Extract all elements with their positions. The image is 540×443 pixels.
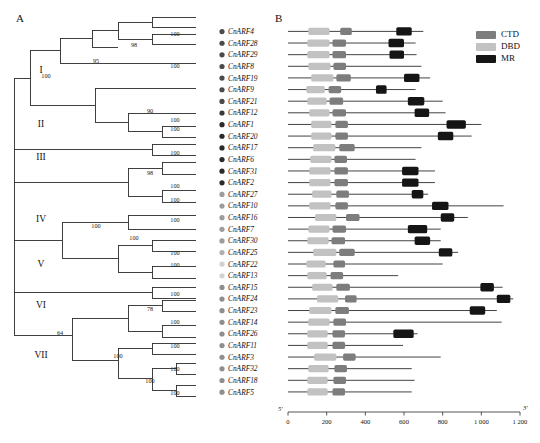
legend-item: DBD — [476, 42, 520, 51]
domain-ctd — [343, 353, 356, 360]
domain-mr — [393, 330, 413, 338]
domain-ctd — [329, 86, 342, 93]
domain-ctd — [340, 28, 352, 35]
domain-dbd — [313, 144, 335, 151]
domain-mr — [390, 50, 405, 58]
domain-ctd — [331, 272, 344, 279]
domain-ctd — [332, 51, 346, 58]
axis-tick-label: 600 — [399, 418, 410, 425]
domain-dbd — [308, 63, 330, 70]
domain-ctd — [333, 377, 346, 384]
domain-mr — [376, 85, 387, 93]
domain-ctd — [332, 330, 345, 337]
domain-ctd — [334, 156, 347, 163]
domain-ctd — [345, 295, 357, 302]
domain-mr — [404, 74, 419, 82]
domain-dbd — [307, 237, 328, 244]
axis-tick-label: 1 200 — [513, 418, 529, 425]
domain-dbd — [307, 330, 327, 337]
domain-mr — [470, 306, 485, 314]
axis-tick-label: 0 — [286, 418, 290, 425]
domain-ctd — [335, 132, 348, 139]
domain-mr — [447, 120, 466, 128]
domain-ctd — [333, 260, 345, 267]
five-prime-marker: 5' — [278, 405, 283, 412]
domain-mr — [439, 248, 453, 256]
domain-dbd — [306, 86, 324, 93]
domain-dbd — [307, 377, 327, 384]
domain-mr — [408, 97, 424, 105]
domain-ctd — [332, 226, 346, 233]
domain-dbd — [311, 121, 331, 128]
legend-swatch-dbd — [476, 43, 496, 51]
axis-tick-label: 800 — [438, 418, 449, 425]
domain-ctd — [339, 144, 354, 151]
domain-dbd — [309, 167, 330, 174]
legend-item: MR — [476, 54, 520, 63]
domain-dbd — [306, 260, 325, 267]
domain-dbd — [309, 202, 330, 209]
domain-dbd — [307, 51, 329, 58]
domain-dbd — [309, 109, 329, 116]
domain-dbd — [307, 98, 326, 105]
domain-dbd — [314, 353, 336, 360]
domain-ctd — [336, 284, 350, 291]
domain-rows — [288, 27, 513, 395]
domain-mr — [432, 202, 448, 210]
domain-dbd — [309, 179, 330, 186]
domain-dbd — [308, 226, 329, 233]
domain-ctd — [332, 39, 346, 46]
domain-dbd — [312, 284, 332, 291]
domain-ctd — [339, 249, 354, 256]
domain-mr — [441, 213, 455, 221]
domain-ctd — [332, 109, 346, 116]
domain-dbd — [307, 388, 327, 395]
domain-ctd — [333, 63, 346, 70]
legend-swatch-mr — [476, 55, 496, 63]
figure-root: A B 100989510010090100100100981001001001… — [0, 0, 540, 443]
domain-mr — [438, 132, 453, 140]
domain-dbd — [307, 39, 329, 46]
length-axis: 02004006008001 0001 2005'3' — [278, 404, 528, 426]
domain-ctd — [332, 237, 346, 244]
domain-ctd — [333, 319, 346, 326]
domain-dbd — [307, 342, 327, 349]
domain-dbd — [308, 365, 328, 372]
domain-dbd — [312, 191, 331, 198]
domain-dbd — [307, 272, 326, 279]
legend-label: CTD — [501, 30, 519, 39]
domain-mr — [402, 167, 418, 175]
domain-ctd — [336, 74, 351, 81]
axis-tick-label: 400 — [360, 418, 371, 425]
domain-mr — [408, 225, 427, 233]
domain-ctd — [335, 202, 348, 209]
domain-dbd — [317, 295, 338, 302]
domain-ctd — [335, 121, 348, 128]
legend-label: MR — [501, 54, 515, 63]
domain-dbd — [308, 319, 329, 326]
domain-ctd — [332, 342, 345, 349]
legend: CTDDBDMR — [476, 30, 520, 63]
domain-ctd — [330, 98, 344, 105]
legend-label: DBD — [501, 42, 520, 51]
three-prime-marker: 3' — [522, 404, 528, 411]
domain-dbd — [315, 214, 336, 221]
domain-mr — [415, 237, 430, 245]
domain-dbd — [308, 28, 329, 35]
axis-tick-label: 1 000 — [474, 418, 490, 425]
domain-ctd — [336, 191, 349, 198]
domain-architecture: 02004006008001 0001 2005'3' — [0, 0, 540, 443]
domain-mr — [402, 178, 418, 186]
domain-mr — [497, 295, 511, 303]
domain-ctd — [334, 167, 348, 174]
domain-dbd — [311, 132, 331, 139]
domain-dbd — [309, 307, 331, 314]
domain-mr — [415, 109, 430, 117]
domain-ctd — [334, 365, 347, 372]
domain-ctd — [334, 179, 348, 186]
domain-ctd — [332, 388, 345, 395]
domain-mr — [396, 27, 411, 35]
domain-mr — [480, 283, 494, 291]
legend-swatch-ctd — [476, 31, 496, 39]
domain-ctd — [346, 214, 360, 221]
